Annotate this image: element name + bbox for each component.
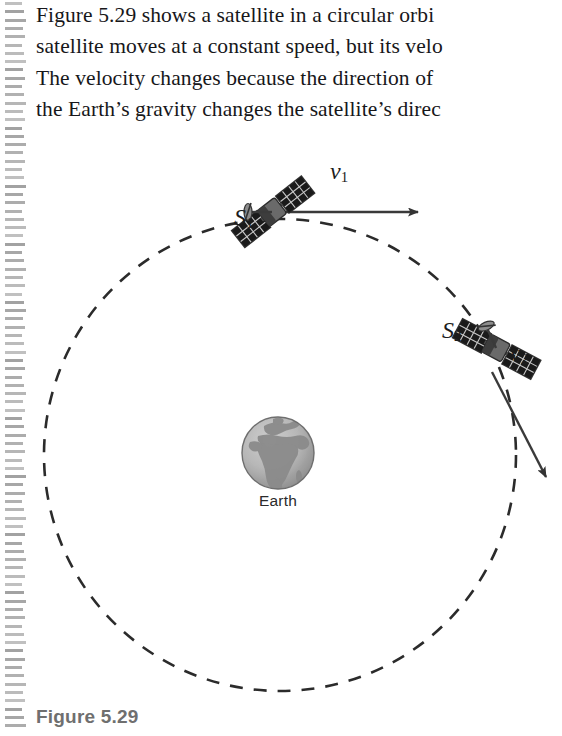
scan-dash (5, 102, 26, 105)
scan-dash (5, 2, 22, 5)
scan-dash (5, 85, 22, 88)
scan-dash (5, 68, 23, 71)
earth-globe (242, 417, 314, 496)
velocity-label-v2: v2 (510, 340, 528, 368)
satellite-label-s1: S1 (234, 204, 253, 232)
earth-label-text: Earth (259, 492, 297, 509)
satellite-label-s2: S2 (442, 317, 461, 345)
velocity-label-v1-sub: 1 (341, 169, 348, 185)
body-line-2: satellite moves at a constant speed, but… (36, 31, 562, 62)
velocity-vector-v2 (492, 372, 546, 477)
satellite-label-s1-text: S (234, 204, 246, 230)
scan-dash (5, 716, 24, 719)
scan-dash (5, 708, 22, 711)
scan-dash (5, 44, 22, 47)
scan-dash (5, 93, 24, 96)
orbit-diagram-svg (0, 140, 562, 700)
body-line-3: The velocity changes because the directi… (36, 63, 562, 94)
satellite-label-s2-sub: 2 (454, 328, 461, 344)
scan-dash (5, 10, 24, 13)
velocity-label-v1-text: v (330, 158, 341, 184)
body-line-1: Figure 5.29 shows a satellite in a circu… (36, 0, 562, 31)
velocity-label-v1: v1 (330, 158, 348, 186)
scan-dash (5, 27, 23, 30)
satellite-label-s1-sub: 1 (246, 215, 253, 231)
scan-dash (5, 724, 26, 727)
scan-dash (5, 118, 25, 121)
scan-dash (5, 52, 24, 55)
scan-dash (5, 77, 25, 80)
scan-dash (5, 60, 26, 63)
earth-label: Earth (0, 492, 562, 510)
satellite-label-s2-text: S (442, 317, 454, 343)
scan-dash (5, 110, 23, 113)
body-paragraph: Figure 5.29 shows a satellite in a circu… (36, 0, 562, 126)
scan-dash (5, 135, 24, 138)
velocity-label-v2-sub: 2 (521, 351, 528, 367)
velocity-label-v2-text: v (510, 340, 521, 366)
body-line-4: the Earth’s gravity changes the satellit… (36, 94, 562, 125)
scan-dash (5, 127, 22, 130)
figure-5-29-illustration: S1 S2 v1 v2 Earth (0, 140, 562, 700)
figure-caption: Figure 5.29 (36, 706, 139, 728)
scan-dash (5, 19, 26, 22)
scan-dash (5, 35, 25, 38)
